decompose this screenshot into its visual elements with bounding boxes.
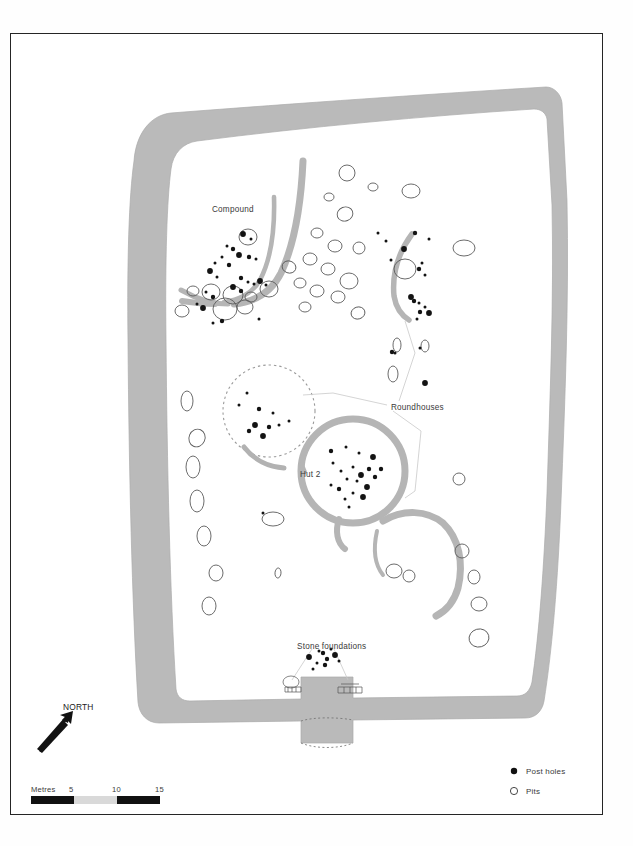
label-north: NORTH	[63, 702, 94, 712]
ditch-west-tail	[182, 301, 215, 304]
post-hole	[316, 662, 319, 665]
post-hole	[247, 281, 250, 284]
post-hole	[226, 245, 229, 248]
post-hole	[247, 255, 251, 259]
post-hole	[348, 506, 351, 509]
post-hole	[417, 267, 421, 271]
pit	[311, 228, 323, 238]
post-hole	[321, 651, 325, 655]
post-hole	[250, 238, 253, 241]
post-hole	[325, 657, 329, 661]
post-hole	[426, 310, 432, 316]
site-plan-svg: Compound Roundhouses Hut 2 Stone foundat…	[11, 34, 601, 813]
pit	[403, 570, 415, 582]
post-hole	[278, 424, 281, 427]
post-hole	[323, 663, 327, 667]
post-hole	[330, 484, 333, 487]
pit	[471, 597, 487, 611]
scale-bar-group: Metres 5 10 15	[31, 785, 164, 804]
scale-seg-1	[31, 796, 74, 804]
pit	[239, 229, 257, 245]
post-hole	[377, 232, 380, 235]
pit	[453, 473, 465, 485]
scale-seg-2	[74, 796, 117, 804]
post-hole	[428, 238, 431, 241]
pit	[294, 278, 306, 288]
legend-item-postholes: Post holes	[511, 767, 566, 776]
leader-roundhouses-west	[303, 393, 387, 405]
projected-roundhouse-dashed	[223, 365, 315, 457]
post-hole	[255, 258, 258, 261]
post-hole	[352, 466, 355, 469]
post-hole	[370, 454, 376, 460]
pit	[310, 285, 324, 297]
roundhouse-se-inner	[375, 531, 383, 575]
post-hole	[390, 350, 394, 354]
post-hole	[358, 472, 364, 478]
post-hole	[413, 231, 417, 235]
post-hole	[236, 252, 242, 258]
post-hole	[258, 318, 261, 321]
pit	[175, 305, 189, 317]
post-hole	[240, 231, 246, 237]
figure-page: Compound Roundhouses Hut 2 Stone foundat…	[0, 0, 633, 846]
legend-label-pits: Pits	[526, 787, 540, 796]
post-hole	[379, 467, 383, 471]
pit	[321, 263, 335, 275]
pit	[181, 391, 193, 411]
post-hole	[390, 259, 393, 262]
post-hole	[422, 380, 428, 386]
post-hole	[214, 262, 217, 265]
post-hole	[329, 449, 333, 453]
post-hole	[416, 318, 419, 321]
pit	[368, 183, 378, 191]
post-hole	[252, 422, 258, 428]
projected-roundhouse-arc	[244, 447, 284, 468]
pit	[393, 338, 401, 352]
stone-cluster-west	[283, 676, 301, 692]
post-hole	[412, 299, 416, 303]
legend-label-postholes: Post holes	[526, 767, 565, 776]
post-hole	[221, 256, 224, 259]
post-hole	[352, 492, 355, 495]
post-hole	[246, 392, 249, 395]
post-hole	[312, 668, 315, 671]
post-hole	[230, 284, 236, 290]
post-hole	[332, 462, 335, 465]
post-hole	[207, 268, 213, 274]
leader-roundhouses-north	[399, 321, 415, 401]
pit	[388, 366, 398, 382]
post-hole	[267, 425, 271, 429]
scale-seg-3	[117, 796, 160, 804]
post-hole	[360, 494, 366, 500]
pit	[331, 291, 345, 303]
post-hole	[231, 247, 235, 251]
post-hole	[337, 487, 341, 491]
post-hole	[238, 404, 241, 407]
label-compound: Compound	[212, 205, 254, 214]
pit	[402, 184, 420, 198]
scale-tick-5: 5	[69, 785, 73, 794]
post-hole	[205, 291, 208, 294]
filled-dot-icon	[511, 768, 517, 774]
label-roundhouses: Roundhouses	[391, 403, 444, 412]
post-hole	[200, 305, 206, 311]
north-arrow-icon	[37, 711, 73, 753]
pit	[339, 165, 355, 181]
post-hole	[340, 470, 343, 473]
pit	[190, 490, 204, 512]
pit	[453, 240, 475, 256]
post-hole	[418, 302, 421, 305]
north-arrow-group: NORTH	[37, 702, 94, 753]
pit	[197, 526, 211, 546]
pit	[386, 564, 402, 578]
pit	[262, 512, 284, 526]
post-hole	[220, 319, 224, 323]
post-hole	[338, 660, 341, 663]
post-hole	[332, 652, 338, 658]
pit	[467, 627, 491, 650]
post-hole	[257, 407, 261, 411]
pit	[275, 568, 282, 578]
legend-item-pits: Pits	[510, 787, 540, 796]
post-hole	[262, 512, 265, 515]
